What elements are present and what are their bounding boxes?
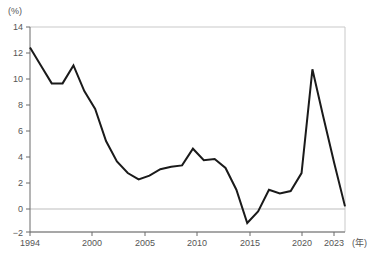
ytick-label-8: 8: [18, 100, 23, 110]
ytick-label-4: 4: [18, 152, 23, 162]
ytick-label-0: 0: [18, 204, 23, 214]
ytick-label-minus2: −2: [13, 228, 23, 238]
xtick-label-2023: 2023: [324, 238, 344, 248]
ytick-label-2: 2: [18, 178, 23, 188]
line-chart-figure: (%) 14 12 10 8: [0, 0, 375, 253]
xtick-label-2000: 2000: [82, 238, 102, 248]
chart-canvas: 14 12 10 8 6 4 2 0 −2 1994 2000 2005 20: [0, 0, 375, 253]
y-axis-tick-labels: 14 12 10 8 6 4 2 0 −2: [13, 22, 23, 238]
ytick-label-10: 10: [13, 74, 23, 84]
x-axis-tick-labels: 1994 2000 2005 2010 2015 2020 2023 (年): [20, 237, 367, 248]
x-axis-ticks: [30, 232, 334, 236]
xtick-label-2005: 2005: [135, 238, 155, 248]
x-axis-unit-label: (年): [352, 237, 367, 248]
xtick-label-1994: 1994: [20, 238, 40, 248]
xtick-label-2020: 2020: [292, 238, 312, 248]
plot-frame: [30, 27, 345, 232]
y-axis-ticks: [26, 27, 30, 232]
ytick-label-12: 12: [13, 48, 23, 58]
series-line-path: [30, 48, 345, 224]
ytick-label-6: 6: [18, 126, 23, 136]
xtick-label-2010: 2010: [187, 238, 207, 248]
xtick-label-2015: 2015: [240, 238, 260, 248]
ytick-label-14: 14: [13, 22, 23, 32]
y-gridlines: [30, 209, 345, 232]
